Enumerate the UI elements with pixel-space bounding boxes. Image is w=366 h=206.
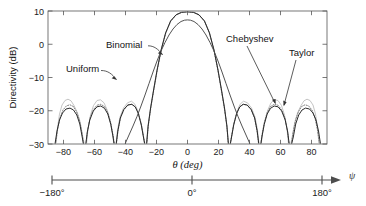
x-tick-label: 80 [306,147,316,157]
x-tick-label: −80 [56,147,71,157]
x-tick-labels: −80 −60 −40 −20 0 20 40 60 80 [56,147,317,157]
y-tick-label: 0 [39,40,44,50]
x-tick-label: 0 [185,147,190,157]
psi-axis-symbol: ψ [349,170,356,181]
psi-tick-label-min: −180° [39,187,64,198]
y-tick-label: −20 [29,106,44,116]
psi-axis: −180° 0° 180° ψ [39,170,356,198]
annotation-label-taylor: Taylor [289,47,314,58]
psi-axis-arrow-icon [331,176,341,183]
x-axis-title: θ (deg) [173,159,203,171]
y-tick-label: 10 [34,7,44,17]
y-tick-label: −10 [29,73,44,83]
y-tick-label: −30 [29,140,44,150]
y-axis-title: Directivity (dB) [7,47,18,109]
x-tick-label: −40 [118,147,133,157]
psi-tick-label-max: 180° [312,187,332,198]
x-tick-label: 40 [244,147,254,157]
x-tick-label: −20 [149,147,164,157]
plot-frame [48,11,327,144]
annotation-label-uniform: Uniform [66,63,99,74]
directivity-pattern-chart: 10 0 −10 −20 −30 −80 −60 −40 −20 0 20 40… [0,0,366,206]
y-tick-labels: 10 0 −10 −20 −30 [29,7,44,150]
figure-root: 10 0 −10 −20 −30 −80 −60 −40 −20 0 20 40… [0,0,366,206]
x-tick-label: −60 [87,147,102,157]
psi-tick-label-mid: 0° [187,187,196,198]
x-tick-label: 20 [213,147,223,157]
annotation-label-chebyshev: Chebyshev [226,33,274,44]
x-tick-label: 60 [275,147,285,157]
annotation-label-binomial: Binomial [106,39,142,50]
